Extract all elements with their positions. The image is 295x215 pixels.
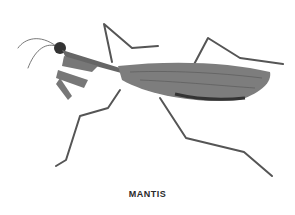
mantis-illustration bbox=[0, 0, 295, 185]
figure-caption: MANTIS bbox=[0, 189, 295, 199]
